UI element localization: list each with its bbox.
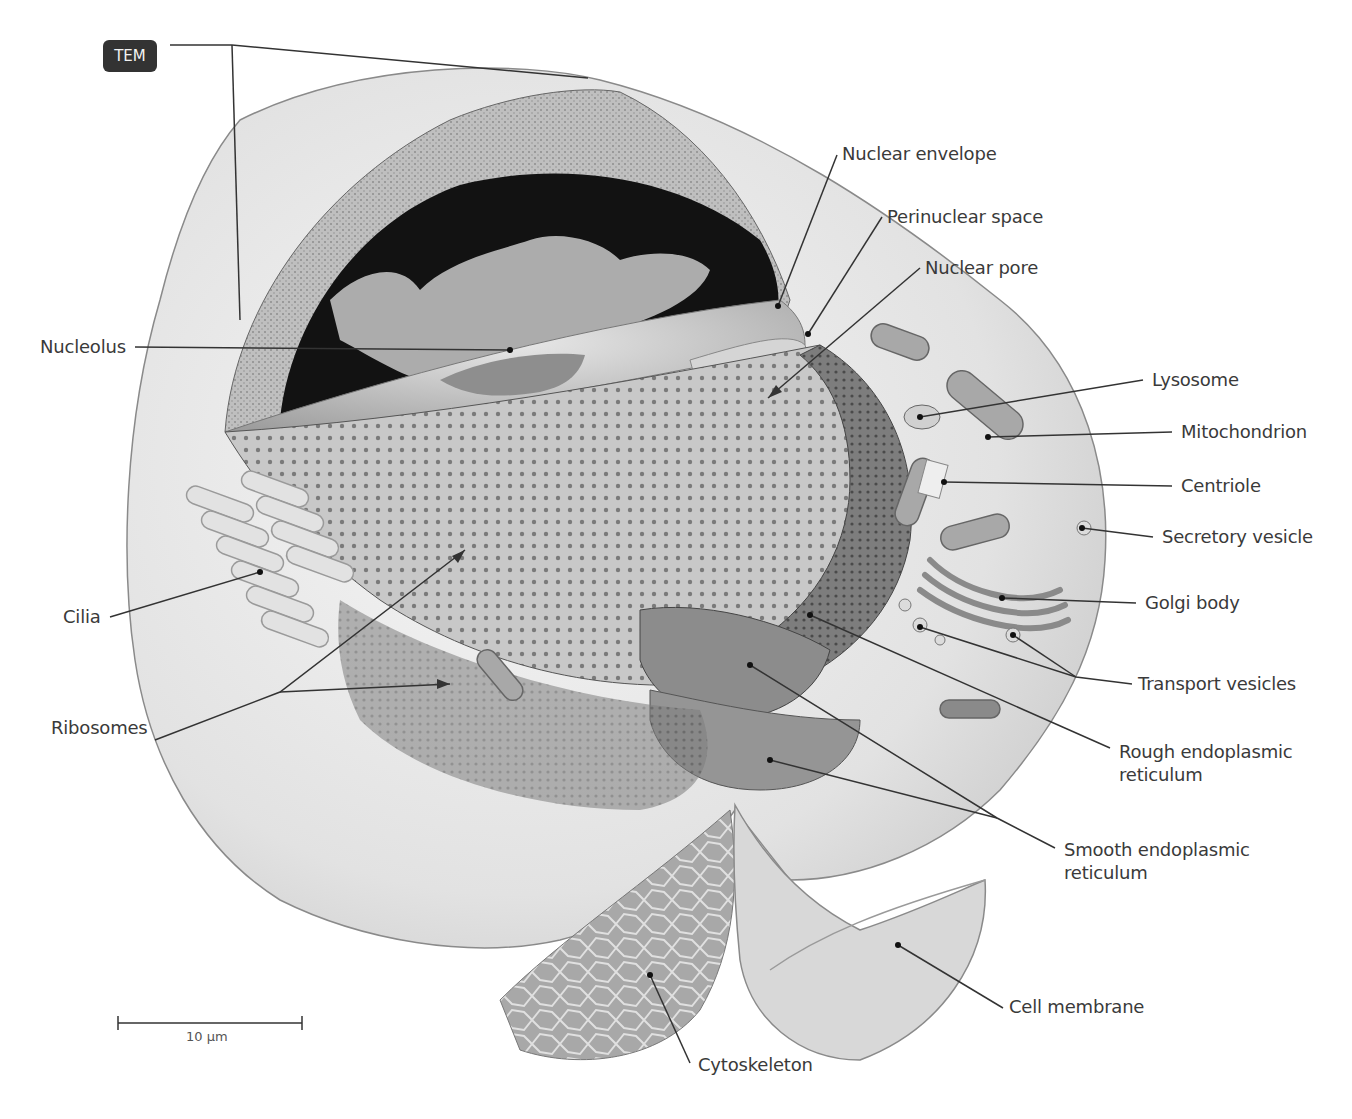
label-secretory-vesicle: Secretory vesicle bbox=[1162, 526, 1313, 548]
label-smooth-er-line1: Smooth endoplasmic bbox=[1064, 839, 1250, 861]
label-cytoskeleton: Cytoskeleton bbox=[698, 1054, 813, 1076]
label-mitochondrion: Mitochondrion bbox=[1181, 421, 1307, 443]
label-golgi-body: Golgi body bbox=[1145, 592, 1240, 614]
label-cilia: Cilia bbox=[63, 606, 101, 628]
label-nuclear-pore: Nuclear pore bbox=[925, 257, 1038, 279]
label-rough-er-line1: Rough endoplasmic bbox=[1119, 741, 1292, 763]
label-rough-er-line2: reticulum bbox=[1119, 764, 1203, 786]
label-lysosome: Lysosome bbox=[1152, 369, 1239, 391]
label-cell-membrane: Cell membrane bbox=[1009, 996, 1144, 1018]
label-nucleolus: Nucleolus bbox=[40, 336, 126, 358]
scale-bar-label: 10 μm bbox=[186, 1029, 228, 1044]
label-smooth-er-line2: reticulum bbox=[1064, 862, 1148, 884]
label-perinuclear-space: Perinuclear space bbox=[887, 206, 1043, 228]
tem-badge: TEM bbox=[103, 40, 157, 72]
label-ribosomes: Ribosomes bbox=[51, 717, 148, 739]
label-centriole: Centriole bbox=[1181, 475, 1261, 497]
cell-illustration bbox=[0, 0, 1352, 1119]
label-nuclear-envelope: Nuclear envelope bbox=[842, 143, 997, 165]
cell-diagram: TEM Nuclear envelope Perinuclear space N… bbox=[0, 0, 1352, 1119]
label-transport-vesicles: Transport vesicles bbox=[1138, 673, 1296, 695]
